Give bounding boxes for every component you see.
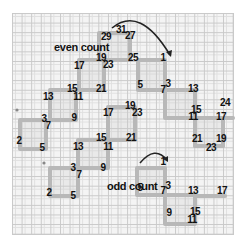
stitch-diagram: even count odd count 2931271923251172115… xyxy=(0,0,246,246)
stitch-step-label: 17 xyxy=(74,61,84,71)
stitch-step-label: 23 xyxy=(206,143,216,153)
stitch-step-label: 23 xyxy=(103,60,113,70)
stitch-step-label: 13 xyxy=(73,142,83,152)
stitch-step-label: 13 xyxy=(43,92,53,102)
stitch-step-label: 9 xyxy=(71,113,76,123)
stitch-step-label: 17 xyxy=(217,186,227,196)
stitch-step-label: 11 xyxy=(103,142,113,152)
stitch-step-label: 11 xyxy=(188,112,198,122)
stitch-step-label: 5 xyxy=(70,191,75,201)
stitch-step-label: 5 xyxy=(137,80,142,90)
stitch-step-label: 1 xyxy=(160,157,165,167)
start-point-marker xyxy=(42,161,45,164)
stitch-step-label: 21 xyxy=(126,133,136,143)
stitch-step-label: 13 xyxy=(188,84,198,94)
odd-count-caption: odd count xyxy=(107,180,157,192)
stitch-step-label: 1 xyxy=(160,53,165,63)
stitch-step-label: 7 xyxy=(76,170,81,180)
stitch-step-label: 11 xyxy=(187,215,197,225)
stitch-step-label: 7 xyxy=(45,121,50,131)
stitch-step-label: 2 xyxy=(46,188,51,198)
stitch-step-label: 17 xyxy=(216,112,226,122)
stitch-step-label: 11 xyxy=(73,92,83,102)
stitch-step-label: 9 xyxy=(166,208,171,218)
stitch-step-label: 5 xyxy=(137,183,142,193)
stitch-step-label: 23 xyxy=(132,108,142,118)
stitch-step-label: 13 xyxy=(188,186,198,196)
stitch-step-label: 27 xyxy=(125,31,135,41)
stitch-step-label: 3 xyxy=(70,163,75,173)
stitch-step-label: 25 xyxy=(128,53,138,63)
stitch-step-label: 24 xyxy=(220,98,230,108)
stitch-step-label: 21 xyxy=(96,84,106,94)
stitch-step-label: 17 xyxy=(103,108,113,118)
stitch-step-label: 21 xyxy=(192,134,202,144)
stitch-step-label: 5 xyxy=(39,143,44,153)
stitch-step-label: 2 xyxy=(16,136,21,146)
stitch-step-label: 9 xyxy=(100,163,105,173)
stitch-step-label: 3 xyxy=(165,79,170,89)
stitch-step-label: 29 xyxy=(101,32,111,42)
stitch-paths xyxy=(0,0,246,246)
stitch-step-label: 3 xyxy=(165,181,170,191)
stitch-step-label: 19 xyxy=(216,134,226,144)
start-point-marker xyxy=(15,108,18,111)
